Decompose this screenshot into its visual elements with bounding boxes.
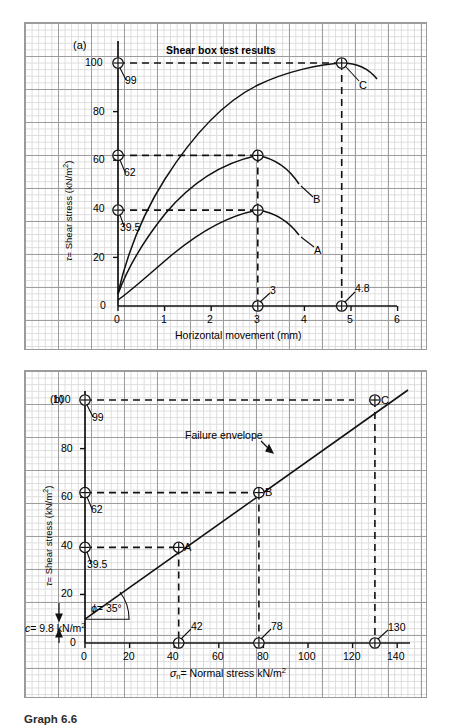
- chart-b-xtick-40: 40: [167, 650, 179, 662]
- chart-a-ytick-100: 100: [85, 56, 103, 68]
- tau-symbol: τ: [63, 257, 74, 261]
- chart-a-ytick-60: 60: [93, 153, 105, 165]
- chart-b-friction-angle-annotation: ϕ= 35°: [91, 602, 122, 614]
- chart-b-xtick-20: 20: [123, 650, 135, 662]
- chart-a-curve-label-b: B: [313, 193, 320, 205]
- chart-a-curve-label-a: A: [314, 244, 321, 256]
- chart-b-yaxis-title: τ= Shear stress (kN/m2): [41, 486, 54, 586]
- chart-b-xtick-60: 60: [212, 650, 224, 662]
- chart-a-curve-label-c: C: [359, 79, 367, 91]
- chart-b-cohesion-sup: 2: [81, 621, 85, 630]
- chart-b-failure-envelope: [85, 390, 408, 619]
- chart-b-panel: (b) 100 80 60 40 20 0 0 20 40 60 80 100 …: [24, 370, 427, 698]
- figure-caption: Graph 6.6: [24, 713, 77, 725]
- chart-b-cohesion-rest: = 9.8 kN/m: [30, 622, 81, 634]
- chart-a-plot: [25, 23, 426, 349]
- chart-a-value-x48: 4.8: [355, 282, 370, 294]
- chart-a-curve-b: [118, 155, 299, 294]
- chart-b-cohesion-annotation: c= 9.8 kN/m2: [25, 621, 85, 634]
- chart-a-yaxis-title: τ= Shear stress (kN/m2): [61, 161, 74, 261]
- chart-b-plot: [25, 371, 426, 697]
- chart-a-value-99: 99: [125, 74, 137, 86]
- chart-b-ytick-40: 40: [61, 539, 73, 551]
- chart-a-yaxis-sup: 2: [61, 164, 70, 168]
- chart-b-xaxis-sup: 2: [282, 666, 286, 675]
- chart-b-value-130: 130: [388, 621, 406, 633]
- chart-b-yaxis-paren: ): [43, 486, 54, 489]
- chart-b-xtick-80: 80: [257, 650, 269, 662]
- chart-b-xaxis-title: σn= Normal stress kN/m2: [170, 666, 286, 681]
- chart-a-ytick-40: 40: [93, 202, 105, 214]
- chart-b-phi-rest: = 35°: [97, 602, 122, 614]
- chart-b-ytick-0: 0: [70, 636, 76, 648]
- chart-b-xaxis-rest: = Normal stress kN/m: [181, 667, 282, 679]
- chart-b-point-label-b: B: [265, 486, 272, 498]
- chart-a-xaxis-title: Horizontal movement (mm): [175, 329, 302, 341]
- chart-a-panel: (a) Shear box test results 100 80 60 40 …: [24, 22, 427, 350]
- chart-a-xtick-6: 6: [394, 313, 400, 325]
- chart-a-xtick-3: 3: [254, 313, 260, 325]
- chart-a-yaxis-text: Shear stress (kN/m: [63, 168, 74, 249]
- chart-b-xtick-120: 120: [343, 650, 361, 662]
- chart-b-ytick-20: 20: [61, 587, 73, 599]
- chart-a-curve-c: [118, 63, 377, 293]
- chart-b-envelope-annotation: Failure envelope: [185, 429, 263, 441]
- chart-b-xtick-100: 100: [298, 650, 316, 662]
- chart-b-ytick-100: 100: [53, 393, 71, 405]
- chart-a-yaxis-paren: ): [63, 161, 74, 164]
- chart-a-ytick-20: 20: [93, 251, 105, 263]
- chart-b-value-99: 99: [92, 411, 104, 423]
- chart-b-ytick-80: 80: [61, 442, 73, 454]
- chart-a-value-x3: 3: [270, 284, 276, 296]
- figure-page: (a) Shear box test results 100 80 60 40 …: [0, 0, 449, 726]
- chart-b-yaxis-sup: 2: [41, 489, 50, 493]
- chart-a-xtick-2: 2: [207, 313, 213, 325]
- chart-b-ytick-60: 60: [61, 490, 73, 502]
- chart-a-xtick-0: 0: [114, 313, 120, 325]
- chart-a-ytick-0: 0: [100, 299, 106, 311]
- chart-a-yaxis-eq: =: [63, 249, 74, 257]
- chart-a-ytick-80: 80: [93, 105, 105, 117]
- chart-b-yaxis-eq: =: [43, 574, 54, 582]
- chart-a-panel-label: (a): [73, 39, 86, 51]
- chart-b-xtick-0: 0: [81, 650, 87, 662]
- chart-b-value-42: 42: [191, 620, 203, 632]
- chart-a-title: Shear box test results: [166, 44, 276, 56]
- chart-a-xtick-4: 4: [301, 313, 307, 325]
- chart-b-point-label-c: C: [381, 394, 389, 406]
- chart-b-value-78: 78: [271, 620, 283, 632]
- chart-b-value-39-5: 39.5: [87, 558, 107, 570]
- chart-b-xtick-140: 140: [387, 650, 405, 662]
- chart-a-xtick-5: 5: [347, 313, 353, 325]
- tau-symbol-b: τ: [43, 582, 54, 586]
- chart-b-yaxis-text: Shear stress (kN/m: [43, 493, 54, 574]
- chart-b-point-label-a: A: [184, 541, 191, 553]
- chart-a-value-62: 62: [124, 166, 136, 178]
- chart-a-value-39-5: 39.5: [120, 221, 140, 233]
- chart-b-value-62: 62: [91, 503, 103, 515]
- chart-a-xtick-1: 1: [161, 313, 167, 325]
